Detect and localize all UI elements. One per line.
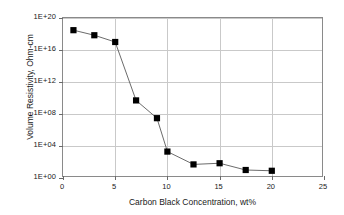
series-line-volume-resistivity: [73, 30, 271, 171]
series-markers: [70, 27, 275, 174]
data-point-marker: [154, 115, 160, 121]
data-point-marker: [269, 168, 275, 174]
chart-figure: 1E+001E+041E+081E+121E+161E+20 051015202…: [0, 0, 344, 215]
y-axis-tick-label: 1E+08: [16, 108, 56, 117]
x-axis-tick: [324, 176, 325, 180]
x-axis-title: Carbon Black Concentration, wt%: [62, 197, 323, 207]
data-point-marker: [190, 161, 196, 167]
data-series-plot: [63, 18, 324, 178]
x-axis-tick-label: 20: [259, 182, 283, 191]
data-point-marker: [112, 39, 118, 45]
x-axis-tick-label: 0: [50, 182, 74, 191]
data-point-marker: [217, 160, 223, 166]
y-axis-tick-label: 1E+16: [16, 44, 56, 53]
y-axis-title: Volume Resistivity, Ohm-cm: [25, 2, 35, 172]
y-axis-tick-label: 1E+04: [16, 140, 56, 149]
y-axis-tick-label: 1E+20: [16, 12, 56, 21]
x-axis-tick-label: 25: [311, 182, 335, 191]
x-axis-tick-label: 10: [154, 182, 178, 191]
y-axis-tick-label: 1E+12: [16, 76, 56, 85]
data-point-marker: [70, 27, 76, 33]
data-point-marker: [133, 97, 139, 103]
data-point-marker: [164, 148, 170, 154]
plot-area: [62, 17, 323, 177]
y-axis-tick-label: 1E+00: [16, 172, 56, 181]
data-point-marker: [243, 167, 249, 173]
data-point-marker: [91, 32, 97, 38]
x-axis-tick-label: 15: [207, 182, 231, 191]
x-axis-tick-label: 5: [102, 182, 126, 191]
